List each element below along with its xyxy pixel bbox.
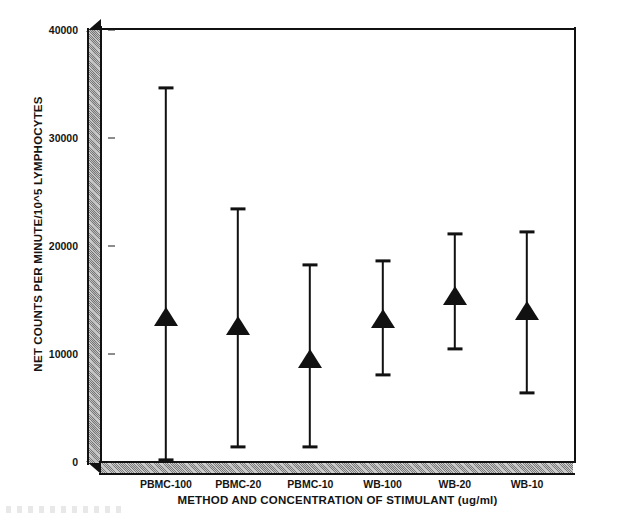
x-axis-title: METHOD AND CONCENTRATION OF STIMULANT (u…	[101, 494, 574, 506]
errorbar-cap-lower	[158, 458, 173, 461]
data-point-marker	[515, 301, 539, 320]
errorbar-cap-lower	[375, 373, 390, 376]
x-axis-tick-label: WB-20	[439, 478, 472, 490]
x-axis-tick-label: PBMC-20	[215, 478, 261, 490]
data-point-marker	[371, 309, 395, 328]
x-axis-tick-label: PBMC-10	[287, 478, 333, 490]
x-axis-tick-label: PBMC-100	[140, 478, 192, 490]
data-point-marker	[154, 307, 178, 326]
errorbar-cap-upper	[231, 208, 246, 211]
data-series-layer	[0, 0, 632, 518]
x-axis-tick-label: WB-10	[511, 478, 544, 490]
errorbar-cap-lower	[303, 445, 318, 448]
errorbar-cap-lower	[447, 348, 462, 351]
scan-artifact	[6, 506, 124, 513]
errorbar-cap-upper	[303, 264, 318, 267]
errorbar-cap-upper	[375, 260, 390, 263]
errorbar-cap-upper	[158, 87, 173, 90]
errorbar-cap-lower	[231, 445, 246, 448]
errorbar-line	[165, 88, 167, 460]
errorbar-cap-lower	[520, 391, 535, 394]
errorbar-cap-upper	[447, 233, 462, 236]
errorbar-cap-upper	[520, 230, 535, 233]
data-point-marker	[298, 349, 322, 368]
data-point-marker	[226, 316, 250, 335]
chart-figure: NET COUNTS PER MINUTE/10^5 LYMPHOCYTES 0…	[0, 0, 632, 518]
x-axis-tick-label: WB-100	[363, 478, 402, 490]
data-point-marker	[443, 286, 467, 305]
